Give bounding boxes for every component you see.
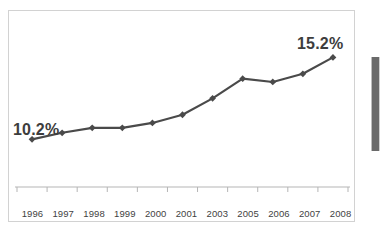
x-axis-label: 2001 <box>171 207 202 225</box>
x-axis-label: 2006 <box>264 207 295 225</box>
data-series-line <box>32 57 333 139</box>
data-point-marker <box>89 124 96 131</box>
start-value-annotation: 10.2% <box>13 121 59 139</box>
x-axis-label: 2000 <box>140 207 171 225</box>
x-axis-label: 2008 <box>325 207 356 225</box>
x-axis-label: 1999 <box>109 207 140 225</box>
data-point-marker <box>59 129 66 136</box>
x-axis-label: 1997 <box>48 207 79 225</box>
x-axis-label: 2007 <box>294 207 325 225</box>
x-axis-tick-labels: 1996199719981999200020012003200520062007… <box>17 207 356 225</box>
x-axis-label: 1996 <box>17 207 48 225</box>
data-point-marker <box>119 124 126 131</box>
chart-frame: 10.2% 15.2% 1996199719981999200020012003… <box>8 10 355 222</box>
scan-edge-bar <box>371 57 380 151</box>
data-point-marker <box>269 79 276 86</box>
x-axis-label: 2003 <box>202 207 233 225</box>
x-axis-label: 2005 <box>233 207 264 225</box>
end-value-annotation: 15.2% <box>297 35 343 53</box>
x-axis-label: 1998 <box>79 207 110 225</box>
data-point-marker <box>149 120 156 127</box>
